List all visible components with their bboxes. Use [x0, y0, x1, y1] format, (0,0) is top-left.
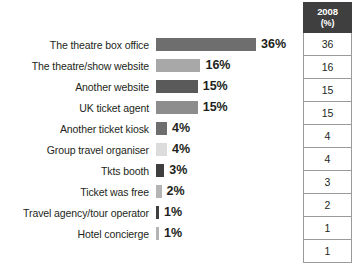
bar-track: 15% — [156, 101, 296, 114]
bar-value-label: 4% — [172, 143, 190, 156]
table-cell-value: 15 — [304, 78, 352, 101]
bar-value-label: 1% — [164, 227, 182, 240]
bar-fill — [156, 143, 167, 156]
table-row: 4 — [304, 124, 352, 147]
bar-value-label: 4% — [172, 122, 190, 135]
table-row: 3 — [304, 170, 352, 193]
bar-value-label: 36% — [261, 38, 286, 51]
bar-category-label: The theatre box office — [0, 39, 156, 51]
table-row: 1 — [304, 239, 352, 262]
bar-fill — [156, 185, 162, 198]
table-cell-value: 4 — [304, 147, 352, 170]
table-row: 36 — [304, 32, 352, 55]
bar-track: 1% — [156, 227, 296, 240]
bar-row: Ticket was free2% — [0, 181, 296, 202]
table-header-row: 2008 (%) — [304, 3, 352, 33]
table-cell-value: 3 — [304, 170, 352, 193]
bar-value-label: 15% — [203, 101, 228, 114]
bar-track: 4% — [156, 143, 296, 156]
bar-row: The theatre/show website16% — [0, 55, 296, 76]
bar-value-label: 2% — [167, 185, 185, 198]
bar-value-label: 3% — [169, 164, 187, 177]
bar-row: Tkts booth3% — [0, 160, 296, 181]
bar-value-label: 15% — [203, 80, 228, 93]
bar-row: Another ticket kiosk4% — [0, 118, 296, 139]
bar-value-label: 1% — [164, 206, 182, 219]
table-row: 2 — [304, 193, 352, 216]
table-cell-value: 16 — [304, 55, 352, 78]
bar-fill — [156, 80, 198, 93]
bar-category-label: UK ticket agent — [0, 102, 156, 114]
bar-fill — [156, 206, 159, 219]
bar-category-label: Another ticket kiosk — [0, 123, 156, 135]
table-header-unit: (%) — [304, 18, 351, 29]
bar-value-label: 16% — [205, 59, 230, 72]
bar-row: Another website15% — [0, 76, 296, 97]
bar-category-label: The theatre/show website — [0, 60, 156, 72]
bar-track: 16% — [156, 59, 296, 72]
bar-track: 1% — [156, 206, 296, 219]
bar-track: 15% — [156, 80, 296, 93]
table-cell-value: 2 — [304, 193, 352, 216]
bar-category-label: Ticket was free — [0, 186, 156, 198]
table-header-cell: 2008 (%) — [304, 3, 352, 33]
table-cell-value: 1 — [304, 216, 352, 239]
bar-row: Travel agency/tour operator1% — [0, 202, 296, 223]
bar-fill — [156, 122, 167, 135]
bar-category-label: Another website — [0, 81, 156, 93]
bar-row: UK ticket agent15% — [0, 97, 296, 118]
bar-fill — [156, 227, 159, 240]
bar-category-label: Hotel concierge — [0, 228, 156, 240]
table-cell-value: 1 — [304, 239, 352, 262]
bar-row: The theatre box office36% — [0, 34, 296, 55]
bar-track: 3% — [156, 164, 296, 177]
bar-fill — [156, 164, 164, 177]
bar-track: 36% — [156, 38, 296, 51]
table-row: 4 — [304, 147, 352, 170]
table-header-year: 2008 — [317, 6, 338, 17]
table-row: 1 — [304, 216, 352, 239]
bar-category-label: Tkts booth — [0, 165, 156, 177]
bar-track: 2% — [156, 185, 296, 198]
table-cell-value: 15 — [304, 101, 352, 124]
bar-row: Hotel concierge1% — [0, 223, 296, 244]
table-cell-value: 4 — [304, 124, 352, 147]
bar-fill — [156, 59, 200, 72]
bar-fill — [156, 38, 256, 51]
bars-area: The theatre box office36%The theatre/sho… — [0, 34, 296, 244]
bar-category-label: Travel agency/tour operator — [0, 207, 156, 219]
bar-category-label: Group travel organiser — [0, 144, 156, 156]
table-row: 15 — [304, 78, 352, 101]
bar-fill — [156, 101, 198, 114]
table-body: 36161515443211 — [304, 32, 352, 262]
table-row: 16 — [304, 55, 352, 78]
data-value-table: 2008 (%) 36161515443211 — [303, 2, 352, 263]
bar-row: Group travel organiser4% — [0, 139, 296, 160]
table-cell-value: 36 — [304, 32, 352, 55]
table-row: 15 — [304, 101, 352, 124]
bar-track: 4% — [156, 122, 296, 135]
